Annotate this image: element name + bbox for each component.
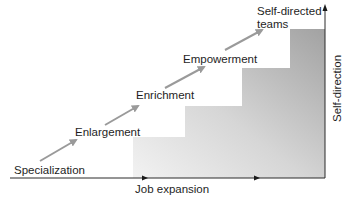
staircase-steps [133,29,325,178]
arrow-enrichment-to-empowerment [165,67,204,88]
arrow-enlargement-to-enrichment [105,106,138,125]
arrow-empowerment-to-teams [225,30,262,50]
stage-label-enrichment: Enrichment [136,89,194,102]
y-axis-arrowhead [323,4,328,11]
stage-label-teams: teams [257,18,288,31]
stage-label-specialization: Specialization [14,164,85,177]
arrow-specialization-to-enlargement [40,140,76,161]
stage-label-self-directed: Self-directed [257,5,322,18]
x-axis-label: Job expansion [135,183,209,196]
y-axis-label: Self-direction [331,55,343,122]
stage-label-empowerment: Empowerment [183,53,257,66]
stage-label-enlargement: Enlargement [75,126,140,139]
